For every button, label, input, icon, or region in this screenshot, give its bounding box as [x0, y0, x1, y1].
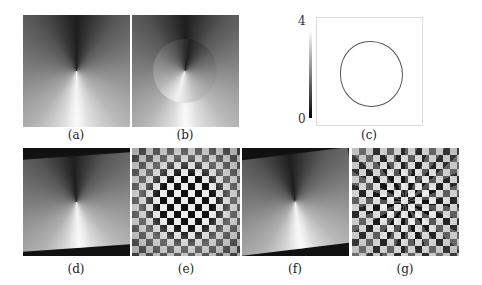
colorbar: [309, 30, 312, 118]
swirl-overlay: [132, 148, 240, 256]
panel-f-image: [242, 148, 349, 256]
panel-c-image: [316, 17, 423, 126]
panel-b-label: (b): [155, 128, 215, 142]
warped-field: [23, 152, 130, 252]
rotated-disk: [153, 39, 217, 103]
panel-a-label: (a): [46, 128, 106, 142]
panel-d-label: (d): [46, 262, 106, 276]
panel-b-image: [132, 15, 239, 127]
panel-f-label: (f): [265, 262, 325, 276]
panel-c-label: (c): [339, 128, 399, 142]
spiral-overlay: [352, 148, 459, 256]
colorbar-max-label: 4: [298, 14, 306, 28]
panel-g-image: [352, 148, 459, 256]
panel-g-label: (g): [375, 262, 435, 276]
warped-field: [242, 148, 349, 256]
boundary-circle: [340, 41, 403, 107]
colorbar-min-label: 0: [298, 112, 306, 126]
panel-d-image: [23, 148, 130, 256]
panel-a-image: [23, 15, 130, 127]
panel-e-label: (e): [156, 262, 216, 276]
panel-e-image: [132, 148, 240, 256]
